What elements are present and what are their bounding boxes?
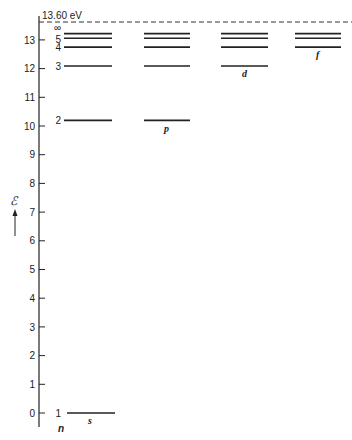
n-axis-label: n xyxy=(58,423,64,434)
energy-level-diagram: 0 1 2 3 4 5 6 7 8 9 10 11 12 13 ℰ 13.60 … xyxy=(0,0,352,440)
column-label-s: s xyxy=(87,415,92,426)
tick-label-9: 9 xyxy=(29,149,35,160)
tick-label-7: 7 xyxy=(29,207,35,218)
column-s xyxy=(64,34,115,413)
up-arrow-icon xyxy=(13,209,18,236)
tick-label-6: 6 xyxy=(29,235,35,246)
tick-label-11: 11 xyxy=(25,92,36,103)
column-f xyxy=(295,34,341,48)
column-p xyxy=(144,34,190,121)
ionization-energy-label: 13.60 eV xyxy=(42,10,82,21)
n-label-2: 2 xyxy=(55,115,61,126)
column-d xyxy=(221,34,268,66)
y-tick-labels: 0 1 2 3 4 5 6 7 8 9 10 11 12 13 xyxy=(24,35,36,419)
n-labels: 1 2 3 4 5 xyxy=(55,34,61,419)
column-label-f: f xyxy=(316,49,321,60)
tick-label-2: 2 xyxy=(29,350,35,361)
tick-label-4: 4 xyxy=(29,293,35,304)
tick-label-5: 5 xyxy=(29,264,35,275)
tick-label-12: 12 xyxy=(24,63,36,74)
n-label-1: 1 xyxy=(55,408,61,419)
tick-label-13: 13 xyxy=(24,35,36,46)
n-label-5: 5 xyxy=(55,34,61,45)
n-label-3: 3 xyxy=(55,61,61,72)
tick-label-0: 0 xyxy=(29,408,35,419)
column-label-p: p xyxy=(163,123,169,134)
tick-label-3: 3 xyxy=(29,322,35,333)
column-label-d: d xyxy=(242,68,248,79)
tick-label-1: 1 xyxy=(29,379,35,390)
n-infinity-label: ∞ xyxy=(54,22,61,33)
tick-label-10: 10 xyxy=(24,121,36,132)
y-ticks xyxy=(39,40,45,413)
energy-axis-symbol: ℰ xyxy=(10,194,19,208)
tick-label-8: 8 xyxy=(29,178,35,189)
